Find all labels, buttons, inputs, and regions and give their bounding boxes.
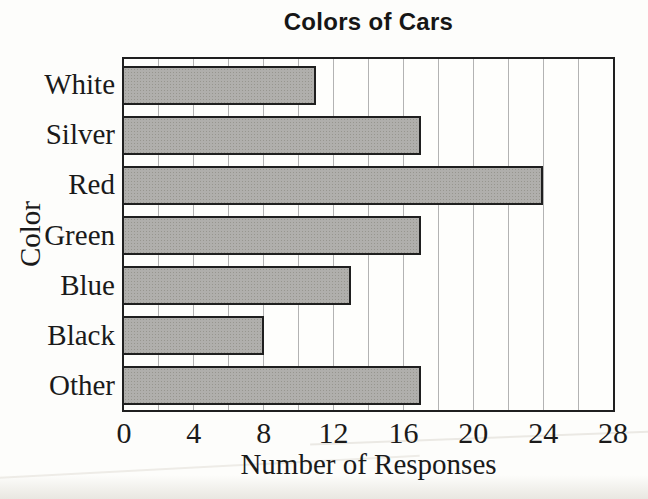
gridline-x-18: [438, 59, 439, 410]
chart-title: Colors of Cars: [122, 8, 615, 36]
y-tick-label-green: Green: [5, 218, 115, 252]
bar-black: [124, 316, 264, 355]
gridline-x-20: [473, 59, 474, 410]
scanned-chart-page: Colors of Cars Color WhiteSilverRedGreen…: [0, 0, 648, 499]
bar-blue: [124, 266, 351, 305]
y-tick-label-white: White: [5, 67, 115, 101]
y-tick-label-red: Red: [5, 167, 115, 201]
y-tick-label-blue: Blue: [5, 268, 115, 302]
bar-white: [124, 66, 316, 105]
gridline-x-22: [508, 59, 509, 410]
x-tick-label-16: 16: [368, 417, 438, 449]
bar-silver: [124, 116, 421, 155]
bar-other: [124, 366, 421, 405]
x-tick-label-8: 8: [229, 417, 299, 449]
y-tick-label-other: Other: [5, 368, 115, 402]
gridline-x-24: [543, 59, 544, 410]
bar-green: [124, 216, 421, 255]
gridline-x-26: [578, 59, 579, 410]
y-tick-label-silver: Silver: [5, 117, 115, 151]
y-tick-label-black: Black: [5, 318, 115, 352]
x-axis-title: Number of Responses: [122, 448, 615, 481]
x-tick-label-24: 24: [508, 417, 578, 449]
bar-red: [124, 166, 543, 205]
x-tick-label-0: 0: [89, 417, 159, 449]
x-tick-label-20: 20: [438, 417, 508, 449]
plot-area: [122, 57, 615, 412]
x-tick-label-4: 4: [159, 417, 229, 449]
x-tick-label-28: 28: [578, 417, 648, 449]
x-tick-label-12: 12: [299, 417, 369, 449]
